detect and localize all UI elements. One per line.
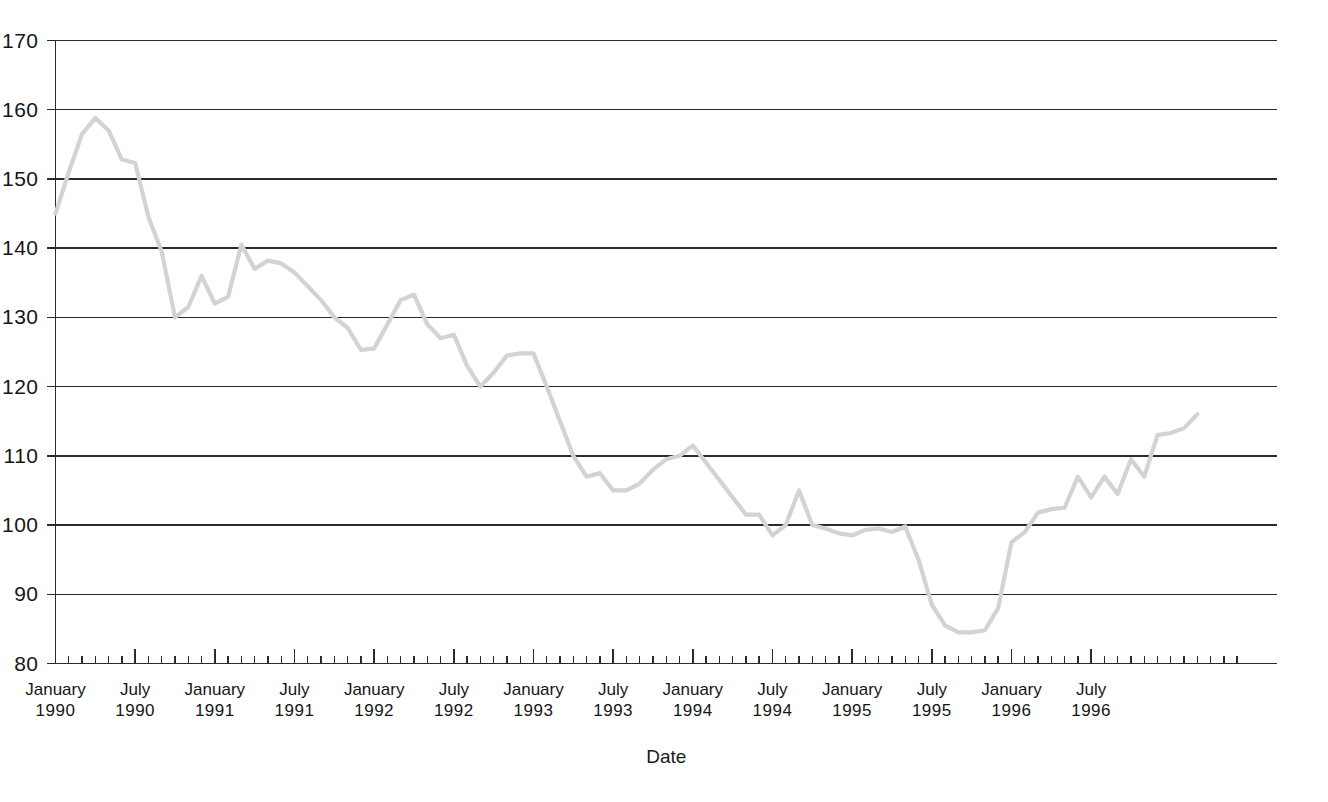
line-chart: 1701601501401301201101009080 January1990… (0, 0, 1328, 802)
y-tick-label: 90 (14, 582, 38, 605)
x-tick-label-month: July (439, 680, 470, 699)
x-tick-label-year: 1992 (354, 701, 394, 720)
gridline-group (56, 41, 1278, 595)
y-tick-label: 120 (2, 375, 39, 398)
y-tick-label: 150 (2, 167, 39, 190)
x-tick-label-month: July (757, 680, 788, 699)
y-tick-label: 170 (2, 29, 39, 52)
x-tick-group (56, 649, 1238, 664)
x-tick-label-year: 1996 (992, 701, 1032, 720)
x-tick-label-month: January (822, 680, 883, 699)
x-tick-label-month: January (663, 680, 724, 699)
x-tick-label-year: 1995 (832, 701, 872, 720)
x-tick-label-group: January1990July1990January1991July1991Ja… (25, 680, 1111, 720)
x-tick-label-year: 1990 (115, 701, 155, 720)
y-tick-label: 110 (4, 444, 39, 467)
x-tick-label-month: July (1076, 680, 1107, 699)
x-axis-title: Date (646, 746, 686, 767)
y-tick-label: 100 (2, 513, 39, 536)
x-tick-label-month: July (917, 680, 948, 699)
x-tick-label-year: 1992 (434, 701, 474, 720)
x-tick-label-year: 1995 (912, 701, 952, 720)
x-tick-label-year: 1990 (36, 701, 76, 720)
y-tick-label: 160 (2, 98, 39, 121)
data-series-line (56, 118, 1198, 632)
chart-container: 1701601501401301201101009080 January1990… (0, 0, 1328, 802)
x-tick-label-year: 1993 (593, 701, 633, 720)
y-tick-label: 130 (2, 305, 39, 328)
x-tick-label-year: 1991 (195, 701, 235, 720)
x-tick-label-month: January (25, 680, 86, 699)
x-tick-label-month: July (598, 680, 629, 699)
x-tick-label-month: July (120, 680, 151, 699)
y-tick-group (47, 41, 56, 664)
x-tick-label-month: January (185, 680, 246, 699)
x-tick-label-year: 1993 (514, 701, 554, 720)
x-tick-label-month: January (344, 680, 405, 699)
x-tick-label-month: January (503, 680, 564, 699)
x-tick-label-year: 1996 (1071, 701, 1111, 720)
x-tick-label-year: 1991 (275, 701, 315, 720)
y-tick-label-group: 1701601501401301201101009080 (2, 29, 39, 675)
x-tick-label-month: January (981, 680, 1042, 699)
y-tick-label: 80 (14, 652, 38, 675)
x-tick-label-month: July (279, 680, 310, 699)
y-tick-label: 140 (2, 236, 39, 259)
x-tick-label-year: 1994 (753, 701, 793, 720)
x-tick-label-year: 1994 (673, 701, 713, 720)
